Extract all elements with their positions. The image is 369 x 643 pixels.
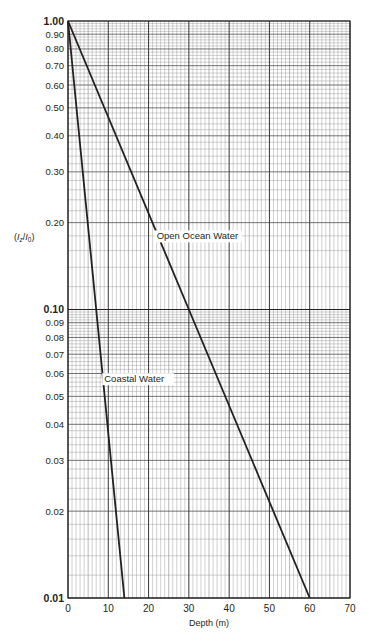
x-tick-label: 60 — [304, 603, 316, 614]
y-tick-label: 0.05 — [46, 391, 65, 402]
y-tick-label: 0.20 — [46, 217, 65, 228]
y-tick-label: 0.06 — [46, 368, 65, 379]
y-tick-label: 1.00 — [44, 15, 65, 27]
x-tick-label: 40 — [224, 603, 236, 614]
y-axis-tick-labels: 1.000.900.800.700.600.500.400.300.200.10… — [44, 15, 65, 604]
y-tick-label: 0.10 — [44, 303, 65, 315]
y-tick-label: 0.40 — [46, 130, 65, 141]
x-tick-label: 0 — [65, 603, 71, 614]
y-tick-label: 0.02 — [46, 506, 65, 517]
x-tick-label: 10 — [103, 603, 115, 614]
y-tick-label: 0.07 — [46, 349, 65, 360]
y-tick-label: 0.50 — [46, 102, 65, 113]
x-axis-title: Depth (m) — [189, 618, 229, 628]
grid-major — [68, 21, 350, 598]
x-tick-label: 30 — [183, 603, 195, 614]
y-axis-title: (Iz/I0) — [14, 232, 34, 243]
y-tick-label: 0.08 — [46, 332, 65, 343]
y-tick-label: 0.90 — [46, 29, 65, 40]
y-tick-label: 0.80 — [46, 43, 65, 54]
y-tick-label: 0.60 — [46, 80, 65, 91]
y-tick-label: 0.01 — [44, 592, 65, 604]
y-tick-label: 0.09 — [46, 317, 65, 328]
series-label-open-ocean-water: Open Ocean Water — [157, 230, 239, 241]
attenuation-chart: Open Ocean WaterCoastal Water 1.000.900.… — [0, 0, 369, 643]
series-label-coastal-water: Coastal Water — [104, 373, 164, 384]
y-tick-label: 0.04 — [46, 419, 65, 430]
y-tick-label: 0.03 — [46, 455, 65, 466]
y-tick-label: 0.30 — [46, 166, 65, 177]
x-tick-label: 50 — [264, 603, 276, 614]
x-tick-label: 20 — [143, 603, 155, 614]
x-tick-label: 70 — [344, 603, 356, 614]
y-tick-label: 0.70 — [46, 60, 65, 71]
x-axis-tick-labels: 010203040506070 — [65, 603, 356, 614]
